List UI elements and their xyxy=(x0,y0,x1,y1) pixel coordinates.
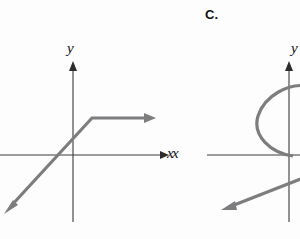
curve-arrowhead-right-a xyxy=(144,113,156,123)
plot-area-a xyxy=(0,0,185,239)
loop-curve-c xyxy=(257,86,300,156)
figure-panel-c: C. y x xyxy=(185,0,300,239)
curve-arrowhead-lower-left-c xyxy=(221,201,237,210)
x-axis-label-c: x xyxy=(167,146,174,161)
y-axis-label-a: y xyxy=(67,41,74,56)
figure-page: . y x C. xyxy=(0,0,300,239)
y-axis-arrowhead-c xyxy=(285,61,293,71)
y-axis-label-c: y xyxy=(291,41,298,56)
plot-area-c xyxy=(185,0,300,239)
piecewise-linear-curve-a xyxy=(11,118,148,206)
y-axis-arrowhead-a xyxy=(69,61,77,71)
figure-panel-a: . y x xyxy=(0,0,185,239)
